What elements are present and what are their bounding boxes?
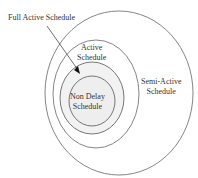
- schedule-venn-diagram: Full Active Schedule Active Schedule Sem…: [0, 0, 198, 178]
- active-label: Active Schedule: [77, 43, 106, 63]
- active-label-line1: Active: [77, 43, 106, 53]
- non-delay-label-line1: Non Delay: [70, 92, 105, 102]
- non-delay-label-line2: Schedule: [70, 102, 105, 112]
- full-active-label: Full Active Schedule: [8, 13, 75, 23]
- active-label-line2: Schedule: [77, 53, 106, 63]
- semi-active-label: Semi-Active Schedule: [141, 77, 181, 97]
- semi-active-label-line2: Schedule: [141, 87, 181, 97]
- semi-active-label-line1: Semi-Active: [141, 77, 181, 87]
- non-delay-label: Non Delay Schedule: [70, 92, 105, 112]
